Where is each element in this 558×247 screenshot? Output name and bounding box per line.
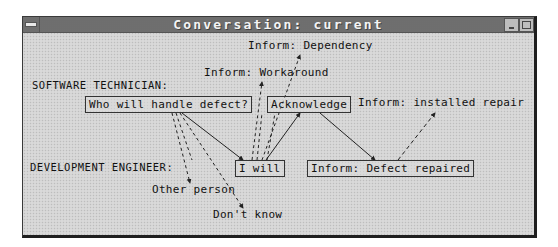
node-i-will[interactable]: I will	[235, 160, 285, 177]
minimize-icon	[509, 27, 514, 29]
node-dont-know[interactable]: Don't know	[213, 209, 282, 221]
node-inform-installed-repair[interactable]: Inform: installed repair	[358, 97, 524, 109]
node-acknowledge[interactable]: Acknowledge	[267, 96, 351, 113]
node-inform-defect-repaired[interactable]: Inform: Defect repaired	[307, 160, 474, 177]
node-inform-workaround[interactable]: Inform: Workaround	[204, 67, 329, 79]
node-who-will-handle-defect[interactable]: Who will handle defect?	[85, 96, 252, 113]
window-title: Conversation: current	[23, 17, 534, 32]
minimize-button[interactable]	[504, 18, 519, 32]
node-inform-dependency[interactable]: Inform: Dependency	[248, 40, 373, 52]
node-other-person[interactable]: Other person	[152, 184, 235, 196]
role-development-engineer: DEVELOPMENT ENGINEER:	[30, 161, 173, 173]
maximize-icon	[522, 21, 531, 29]
maximize-button[interactable]	[519, 18, 534, 32]
title-bar[interactable]: Conversation: current	[23, 17, 534, 33]
role-software-technician: SOFTWARE TECHNICIAN:	[32, 79, 168, 91]
